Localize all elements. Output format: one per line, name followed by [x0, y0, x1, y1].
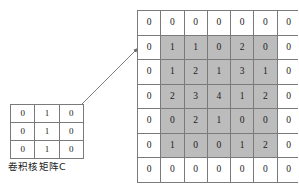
matrix-cell: 0 — [231, 158, 254, 183]
matrix-cell: 0 — [277, 11, 298, 36]
matrix-cell: 0 — [207, 11, 230, 36]
matrix-row: 0 0 0 0 0 0 0 — [138, 11, 299, 36]
matrix-cell-highlighted: 1 — [254, 60, 277, 85]
kernel-matrix: 0 1 0 0 1 0 0 1 0 — [10, 104, 84, 159]
matrix-cell: 0 — [138, 109, 161, 134]
matrix-cell: 0 — [138, 133, 161, 158]
matrix-cell-highlighted: 1 — [161, 133, 184, 158]
matrix-cell-highlighted: 1 — [207, 109, 230, 134]
kernel-row: 0 1 0 — [11, 105, 84, 123]
matrix-cell-highlighted: 4 — [207, 84, 230, 109]
matrix-cell-highlighted: 0 — [207, 133, 230, 158]
input-matrix: 0 0 0 0 0 0 0 0 1 1 0 2 0 0 0 1 2 1 — [137, 10, 298, 183]
convolution-figure: 0 0 0 0 0 0 0 0 1 1 0 2 0 0 0 1 2 1 — [0, 0, 298, 184]
kernel-caption: 卷积核矩阵C — [8, 160, 104, 173]
matrix-cell: 0 — [254, 11, 277, 36]
kernel-cell: 1 — [35, 105, 59, 123]
matrix-cell-highlighted: 3 — [184, 84, 207, 109]
matrix-row: 0 2 3 4 1 2 0 — [138, 84, 299, 109]
matrix-cell-highlighted: 2 — [254, 133, 277, 158]
kernel-matrix-body: 0 1 0 0 1 0 0 1 0 — [11, 105, 84, 159]
kernel-cell: 0 — [59, 141, 83, 159]
kernel-cell: 0 — [59, 105, 83, 123]
kernel-cell: 0 — [11, 141, 35, 159]
matrix-cell: 0 — [277, 84, 298, 109]
matrix-cell: 0 — [184, 11, 207, 36]
matrix-cell-highlighted: 0 — [254, 35, 277, 60]
matrix-cell-highlighted: 0 — [207, 35, 230, 60]
matrix-cell: 0 — [254, 158, 277, 183]
matrix-cell: 0 — [138, 11, 161, 36]
kernel-row: 0 1 0 — [11, 123, 84, 141]
matrix-cell: 0 — [277, 60, 298, 85]
matrix-cell-highlighted: 2 — [161, 84, 184, 109]
matrix-cell: 0 — [231, 11, 254, 36]
matrix-cell-highlighted: 0 — [184, 133, 207, 158]
kernel-cell: 1 — [35, 123, 59, 141]
matrix-cell-highlighted: 2 — [184, 109, 207, 134]
kernel-cell: 1 — [35, 141, 59, 159]
matrix-row: 0 1 0 0 1 2 0 — [138, 133, 299, 158]
matrix-row: 0 0 0 0 0 0 0 — [138, 158, 299, 183]
matrix-cell-highlighted: 1 — [161, 60, 184, 85]
kernel-cell: 0 — [11, 105, 35, 123]
matrix-cell-highlighted: 1 — [161, 35, 184, 60]
matrix-cell: 0 — [277, 133, 298, 158]
matrix-cell: 0 — [138, 158, 161, 183]
kernel-cell: 0 — [59, 123, 83, 141]
matrix-cell: 0 — [138, 84, 161, 109]
kernel-cell: 0 — [11, 123, 35, 141]
matrix-cell: 0 — [184, 158, 207, 183]
matrix-cell: 0 — [207, 158, 230, 183]
matrix-cell-highlighted: 0 — [254, 109, 277, 134]
matrix-cell: 0 — [161, 158, 184, 183]
matrix-cell: 0 — [138, 35, 161, 60]
matrix-cell-highlighted: 0 — [161, 109, 184, 134]
matrix-cell-highlighted: 2 — [254, 84, 277, 109]
matrix-row: 0 0 2 1 0 0 0 — [138, 109, 299, 134]
matrix-cell-highlighted: 2 — [231, 35, 254, 60]
matrix-cell: 0 — [277, 35, 298, 60]
matrix-cell-highlighted: 1 — [207, 60, 230, 85]
matrix-cell: 0 — [277, 158, 298, 183]
matrix-cell-highlighted: 1 — [231, 133, 254, 158]
matrix-cell: 0 — [161, 11, 184, 36]
matrix-cell-highlighted: 0 — [231, 109, 254, 134]
matrix-cell-highlighted: 1 — [231, 84, 254, 109]
arrow-line — [80, 48, 138, 106]
matrix-cell-highlighted: 2 — [184, 60, 207, 85]
kernel-row: 0 1 0 — [11, 141, 84, 159]
input-matrix-body: 0 0 0 0 0 0 0 0 1 1 0 2 0 0 0 1 2 1 — [138, 11, 299, 183]
matrix-cell: 0 — [138, 60, 161, 85]
matrix-cell-highlighted: 1 — [184, 35, 207, 60]
matrix-row: 0 1 1 0 2 0 0 — [138, 35, 299, 60]
matrix-row: 0 1 2 1 3 1 0 — [138, 60, 299, 85]
matrix-cell-highlighted: 3 — [231, 60, 254, 85]
matrix-cell: 0 — [277, 109, 298, 134]
